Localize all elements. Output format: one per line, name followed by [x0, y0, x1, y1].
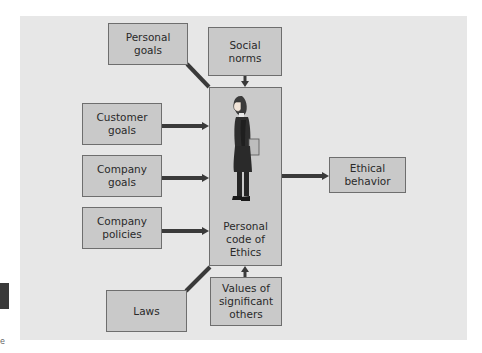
box-company-policies: Company policies [82, 207, 162, 249]
woman-figure-icon [210, 88, 283, 228]
box-social-norms: Social norms [208, 27, 282, 76]
center-label: Personal code of Ethics [210, 220, 281, 259]
box-personal-goals: Personal goals [108, 23, 188, 65]
arrow-personal-goals [187, 64, 209, 87]
box-customer-goals: Customer goals [82, 103, 162, 145]
arrow-laws [186, 267, 210, 291]
box-personal-code-of-ethics: Personal code of Ethics [209, 87, 282, 266]
box-laws: Laws [106, 290, 187, 332]
box-ethical-behavior: Ethical behavior [329, 157, 406, 193]
box-company-goals: Company goals [82, 155, 162, 197]
box-values-of-significant-others: Values of significant others [210, 277, 282, 326]
